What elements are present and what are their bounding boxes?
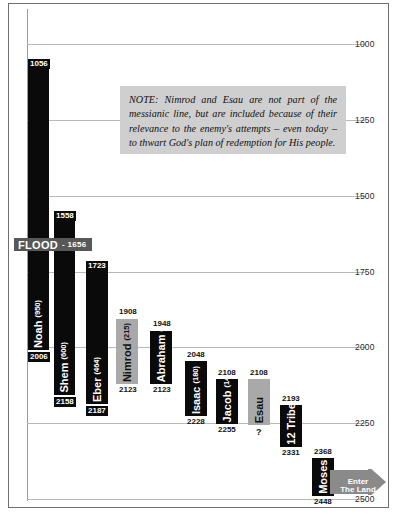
bar-shem-end-label: 2158 [54,397,76,407]
bar-12-tribes-end-label: 2331 [280,448,302,458]
bar-shem-start-label: 1558 [54,211,76,221]
bar-noah-name: Noah (950) [28,61,49,350]
gridline-1750 [27,272,366,273]
bar-nimrod-label: Nimrod (215) [122,323,133,382]
bar-jacob-end-label: 2255 [216,425,238,435]
bar-noah-label: Noah (950) [33,300,44,348]
bar-isaac-end-label: 2228 [185,417,207,427]
tick-label-1500: 1500 [355,191,375,201]
bar-nimrod-end-label: 2123 [117,385,139,395]
gridline-1000 [27,44,366,45]
bar-eber-start-label: 1723 [86,261,108,271]
bar-esau-label: Esau [254,397,265,423]
gridline-1500 [27,196,366,197]
bar-12-tribes-start-label: 2193 [280,394,302,404]
enter-the-land-line2: The Land [336,486,380,494]
gridline-2000 [27,347,366,348]
bar-nimrod-start-label: 1908 [117,307,139,317]
bar-isaac-start-label: 2048 [185,350,207,360]
bar-noah-start-label: 1056 [28,59,50,69]
enter-the-land-arrow: Enter The Land [330,469,386,495]
bar-moses-start-label: 2368 [312,447,334,457]
bar-abraham-end-label: 2123 [151,385,173,395]
bar-isaac-label: Isaac (180) [191,366,202,414]
tick-label-2250: 2250 [355,418,375,428]
flood-year: - 1656 [62,240,86,249]
tick-label-2500: 2500 [355,494,375,504]
bar-eber[interactable]: Eber (464) [86,263,108,404]
flood-banner: FLOOD - 1656 [14,238,92,251]
bar-jacob-start-label: 2108 [216,368,238,378]
bar-esau-end-label: ? [256,427,262,437]
bar-abraham[interactable]: Abraham (175) [150,331,172,384]
bar-abraham-name: Abraham (175) [150,331,172,384]
bar-esau-start-label: 2108 [248,368,270,378]
bar-moses-end-label: 2448 [312,497,334,507]
bar-noah-end-label: 2006 [28,352,50,362]
bar-12-tribes-label: 12 Tribes [286,397,297,445]
tick-label-1750: 1750 [355,267,375,277]
tick-label-2000: 2000 [355,342,375,352]
bar-jacob[interactable]: Jacob (145) [216,379,238,424]
bar-12-tribes-name: 12 Tribes [280,405,302,447]
bar-abraham-start-label: 1948 [151,319,173,329]
tick-label-1250: 1250 [355,115,375,125]
tick-label-1000: 1000 [355,39,375,49]
bar-nimrod[interactable]: Nimrod (215) [116,319,138,384]
note-box: NOTE: Nimrod and Esau are not part of th… [120,86,346,154]
bar-isaac-name: Isaac (180) [185,361,207,416]
bar-isaac[interactable]: Isaac (180) [185,361,207,416]
bar-esau[interactable]: Esau [248,379,270,425]
flood-label: FLOOD [18,239,58,251]
bar-eber-name: Eber (464) [86,263,108,404]
enter-the-land-text: Enter The Land [336,478,380,495]
bar-nimrod-name: Nimrod (215) [116,319,138,384]
bar-jacob-name: Jacob (145) [216,379,238,424]
bar-esau-name: Esau [248,379,270,425]
chart-page: 1000 1250 1500 1750 2000 2250 2500 NOTE:… [0,0,397,515]
bar-12-tribes[interactable]: 12 Tribes [280,405,302,447]
plot-area: 1000 1250 1500 1750 2000 2250 2500 NOTE:… [8,3,389,508]
bar-eber-end-label: 2187 [86,406,108,416]
bar-noah[interactable]: Noah (950) [28,61,49,350]
bar-shem-label: Shem (600) [59,342,70,393]
bar-eber-label: Eber (464) [92,357,103,402]
